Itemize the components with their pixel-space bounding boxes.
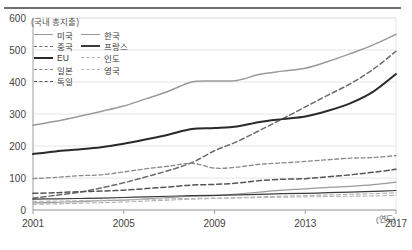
legend-item[interactable]: 한국 <box>81 29 128 41</box>
y-axis-tick-label: 600 <box>0 13 26 24</box>
legend-swatch-icon <box>81 34 100 35</box>
legend-label: 일본 <box>57 64 73 76</box>
legend-item[interactable]: 독일 <box>34 75 73 87</box>
y-axis-tick-label: 500 <box>0 45 26 56</box>
legend-item[interactable]: 영국 <box>81 64 128 76</box>
legend-label: 프랑스 <box>104 40 128 52</box>
legend-swatch-icon <box>34 81 53 82</box>
legend-swatch-icon <box>34 34 53 35</box>
legend-swatch-icon <box>81 69 100 70</box>
legend-item[interactable]: 중국 <box>34 40 73 52</box>
x-axis-tick-label: 2013 <box>283 218 327 229</box>
legend-label: 인도 <box>104 52 120 64</box>
y-axis-tick-label: 400 <box>0 77 26 88</box>
legend-item[interactable]: EU <box>34 53 73 63</box>
x-axis-tick-label: 2017 <box>374 218 412 229</box>
top-divider-rule <box>4 7 401 9</box>
legend-swatch-icon <box>34 46 53 47</box>
chart-legend: 미국한국중국프랑스EU인도일본영국독일 <box>34 29 128 87</box>
legend-label: 영국 <box>104 64 120 76</box>
legend-swatch-icon <box>81 57 100 58</box>
legend-label: 독일 <box>57 75 73 87</box>
y-axis-title: (국내 총지출) <box>31 15 79 27</box>
legend-swatch-icon <box>34 57 53 59</box>
legend-item[interactable]: 프랑스 <box>81 40 128 52</box>
series-line <box>33 169 396 193</box>
y-axis-tick-label: 0 <box>0 205 26 216</box>
legend-label: 미국 <box>57 29 73 41</box>
legend-item[interactable]: 인도 <box>81 52 128 64</box>
legend-item[interactable]: 일본 <box>34 64 73 76</box>
legend-item[interactable]: 미국 <box>34 29 73 41</box>
legend-label: 한국 <box>104 29 120 41</box>
x-axis-tick-label: 2001 <box>11 218 55 229</box>
y-axis-tick-label: 200 <box>0 141 26 152</box>
legend-label: 중국 <box>57 40 73 52</box>
x-axis-tick-label: 2005 <box>102 218 146 229</box>
y-axis-tick-label: 300 <box>0 109 26 120</box>
legend-swatch-icon <box>34 69 53 70</box>
x-axis-tick-label: 2009 <box>193 218 237 229</box>
legend-swatch-icon <box>81 45 100 47</box>
y-axis-tick-label: 100 <box>0 173 26 184</box>
legend-label: EU <box>57 53 69 63</box>
line-chart: (국내 총지출) (연도) 0100200300400500600 200120… <box>0 10 405 250</box>
